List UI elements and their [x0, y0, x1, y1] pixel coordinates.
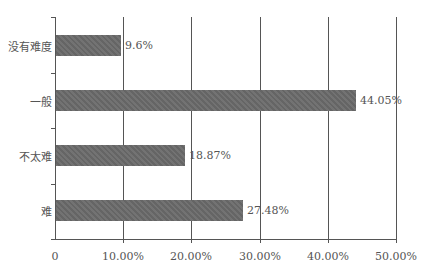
x-tick-label: 40.00% [307, 250, 349, 263]
bar [56, 35, 121, 56]
x-tick-label: 0 [52, 250, 59, 263]
gridline [396, 17, 397, 243]
bar [56, 145, 185, 166]
category-label: 一般 [0, 93, 52, 109]
category-label: 没有难度 [0, 38, 52, 54]
y-tick [51, 73, 55, 74]
x-tick-label: 50.00% [375, 250, 417, 263]
bar [56, 90, 356, 111]
value-label: 44.05% [360, 94, 402, 107]
y-tick [51, 17, 55, 18]
bar [56, 200, 243, 221]
x-axis [51, 239, 397, 240]
category-label: 难 [0, 203, 52, 219]
category-label: 不太难 [0, 148, 52, 164]
x-tick-label: 30.00% [239, 250, 281, 263]
y-tick [51, 239, 55, 240]
value-label: 9.6% [125, 39, 153, 52]
gridline [328, 17, 329, 243]
y-tick [51, 128, 55, 129]
value-label: 18.87% [189, 149, 231, 162]
value-label: 27.48% [247, 204, 289, 217]
x-tick-label: 20.00% [170, 250, 212, 263]
y-tick [51, 184, 55, 185]
x-tick-label: 10.00% [102, 250, 144, 263]
bar-chart: 没有难度9.6%一般44.05%不太难18.87%难27.48% 010.00%… [0, 0, 429, 280]
